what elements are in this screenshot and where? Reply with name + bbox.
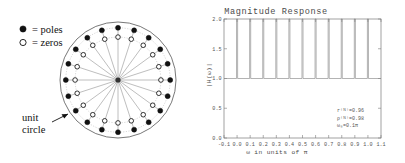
x-tick-label: 0.0	[232, 142, 241, 148]
annotation-rho: ρ⁽ᴺ⁾=0.98	[337, 116, 364, 122]
zero-marker	[90, 43, 95, 48]
zero-marker	[116, 35, 121, 40]
zero-marker	[129, 119, 134, 124]
zero-marker	[75, 91, 80, 96]
pole-zero-svg: = poles = zeros unit circle	[0, 0, 200, 163]
origin-marker	[115, 77, 120, 82]
x-tick-label: 0.1	[246, 142, 255, 148]
filled-circle-icon	[20, 26, 26, 32]
pole-marker	[85, 120, 90, 125]
x-tick-label: 0.4	[285, 142, 294, 148]
zero-marker	[141, 112, 146, 117]
pole-marker	[132, 127, 137, 132]
x-tick-label: 0.2	[259, 142, 268, 148]
pole-zero-diagram-panel: = poles = zeros unit circle	[0, 0, 200, 163]
x-tick-label: 0.9	[350, 142, 359, 148]
pole-marker	[85, 35, 90, 40]
x-tick-label: 0.6	[311, 142, 320, 148]
magnitude-response-svg: Magnitude Response -0.10.00.10.20.30.40.…	[200, 0, 405, 163]
zero-marker	[129, 37, 134, 42]
zero-marker	[73, 78, 78, 83]
x-axis-label: ω in units of π	[246, 149, 308, 156]
open-circle-icon	[20, 39, 26, 45]
zero-marker	[159, 78, 164, 83]
y-tick-label: 0.0	[212, 136, 221, 142]
zero-marker	[81, 103, 86, 108]
y-tick-label: 1.0	[212, 76, 221, 82]
y-tick-label: 1.5	[212, 47, 221, 53]
pole-marker	[116, 25, 121, 30]
x-tick-label: 0.3	[272, 142, 281, 148]
chart-title: Magnitude Response	[224, 7, 328, 17]
pole-marker	[158, 108, 163, 113]
x-tick-label: -0.1	[218, 142, 230, 148]
y-tick-label: 2.0	[212, 17, 221, 23]
zero-marker	[116, 121, 121, 126]
annotation-omega: ω₀=0.1π	[337, 123, 358, 129]
zero-marker	[157, 64, 162, 69]
figure-root: = poles = zeros unit circle Magnitude Re…	[0, 0, 405, 163]
pole-marker	[146, 120, 151, 125]
y-axis-label: |H(ω)|	[206, 63, 213, 88]
zero-marker	[141, 43, 146, 48]
x-tick-label: 0.8	[337, 142, 346, 148]
pole-marker	[66, 61, 71, 66]
x-tick-label: 1.1	[376, 142, 385, 148]
zero-marker	[157, 91, 162, 96]
pole-marker	[73, 47, 78, 52]
unit-circle-annotation: unit circle	[22, 112, 68, 135]
pole-marker	[165, 94, 170, 99]
zero-marker	[102, 119, 107, 124]
pole-marker	[165, 61, 170, 66]
pole-marker	[158, 47, 163, 52]
y-tick-label: 0.5	[212, 106, 221, 112]
zero-marker	[150, 103, 155, 108]
zero-marker	[75, 64, 80, 69]
x-tick-label: 0.7	[324, 142, 333, 148]
pole-zero-constellation	[60, 22, 176, 138]
parameter-annotations: r⁽ᴺ⁾=0.96 ρ⁽ᴺ⁾=0.98 ω₀=0.1π	[337, 108, 364, 129]
pole-marker	[116, 130, 121, 135]
x-tick-label: 1.0	[363, 142, 372, 148]
zero-marker	[102, 37, 107, 42]
pole-marker	[73, 108, 78, 113]
pole-marker	[99, 127, 104, 132]
zero-marker	[81, 52, 86, 57]
pole-marker	[99, 28, 104, 33]
pole-marker	[132, 28, 137, 33]
annotation-r: r⁽ᴺ⁾=0.96	[337, 108, 364, 114]
legend-zeros-label: = zeros	[32, 37, 63, 48]
pole-marker	[63, 78, 68, 83]
legend: = poles = zeros	[20, 24, 63, 49]
unit-circle-label-line2: circle	[22, 124, 46, 135]
magnitude-response-curve	[224, 19, 381, 79]
chart-plot-area: -0.10.00.10.20.30.40.50.60.70.80.91.01.1…	[212, 17, 385, 148]
x-tick-label: 0.5	[298, 142, 307, 148]
pole-marker	[146, 35, 151, 40]
pole-marker	[66, 94, 71, 99]
legend-poles-label: = poles	[32, 24, 63, 35]
unit-circle-label-line1: unit	[22, 112, 38, 123]
zero-marker	[150, 52, 155, 57]
magnitude-response-panel: Magnitude Response -0.10.00.10.20.30.40.…	[200, 0, 405, 163]
zero-marker	[90, 112, 95, 117]
pole-marker	[168, 78, 173, 83]
